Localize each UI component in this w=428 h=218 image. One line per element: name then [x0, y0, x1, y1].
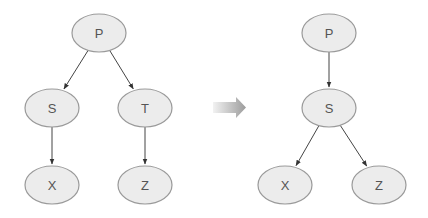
node-label: P — [95, 26, 104, 41]
diagram-before: PSTXZ — [25, 14, 172, 204]
node-t: T — [118, 89, 172, 127]
node-label: Z — [375, 178, 383, 193]
edge-s-z — [340, 125, 366, 166]
node-p: P — [302, 14, 356, 52]
node-s: S — [302, 89, 356, 127]
node-label: T — [141, 101, 149, 116]
node-s: S — [25, 89, 79, 127]
node-z: Z — [118, 166, 172, 204]
node-x: X — [25, 166, 79, 204]
node-label: Z — [141, 178, 149, 193]
diagram-after: PSXZ — [258, 14, 406, 204]
node-label: S — [48, 101, 57, 116]
right-arrow-icon — [213, 97, 246, 118]
transition-arrow — [213, 97, 246, 118]
node-p: P — [72, 14, 126, 52]
node-x: X — [258, 166, 312, 204]
node-z: Z — [352, 166, 406, 204]
edge-p-s — [64, 50, 88, 88]
node-label: P — [325, 26, 334, 41]
edge-p-t — [110, 50, 134, 88]
diagram-canvas: PSTXZ PSXZ — [0, 0, 428, 218]
edge-s-x — [296, 126, 319, 166]
node-label: S — [325, 101, 334, 116]
node-label: X — [281, 178, 290, 193]
node-label: X — [48, 178, 57, 193]
